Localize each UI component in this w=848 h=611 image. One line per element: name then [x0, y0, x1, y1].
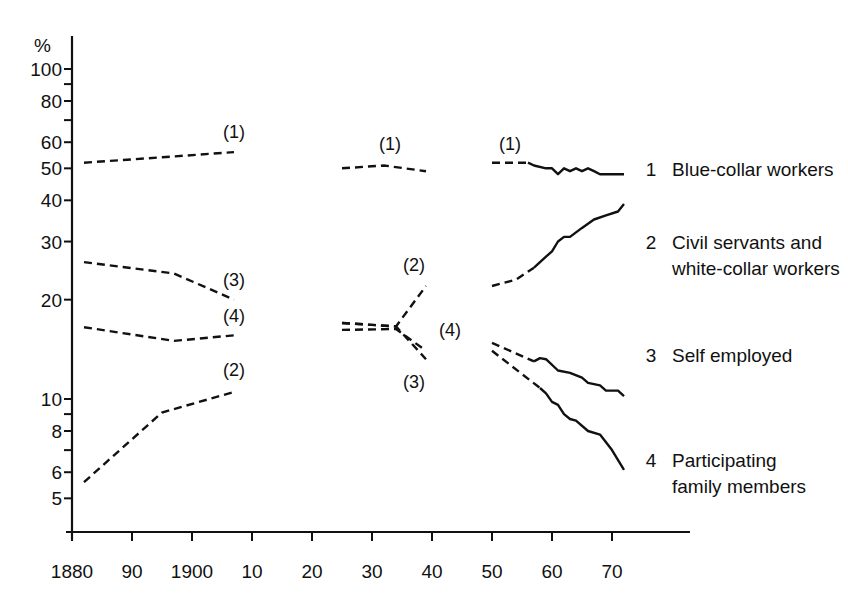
series-annotation: (1)	[379, 134, 401, 154]
series-4-dashed-segment	[342, 329, 426, 351]
legend: 1Blue-collar workers2Civil servants andw…	[646, 159, 840, 497]
y-tick-label: 8	[51, 421, 62, 442]
legend-item-2: 2Civil servants andwhite-collar workers	[646, 232, 840, 279]
series-lines	[84, 152, 624, 482]
y-unit-label: %	[34, 35, 51, 56]
x-tick-label: 90	[121, 561, 142, 582]
series-annotation: (4)	[439, 320, 461, 340]
x-ticks: 188090190010203040506070	[51, 532, 623, 582]
x-tick-label: 60	[541, 561, 562, 582]
series-4-dashed-segment	[492, 351, 540, 388]
series-2-solid-segment	[534, 204, 624, 268]
series-annotation: (2)	[403, 255, 425, 275]
y-ticks: 10080605040302010865	[30, 59, 72, 509]
x-tick-label: 10	[241, 561, 262, 582]
series-1-dashed-segment	[342, 166, 426, 172]
legend-label: Civil servants and	[672, 232, 822, 253]
x-tick-label: 40	[421, 561, 442, 582]
line-chart: % 10080605040302010865 18809019001020304…	[0, 0, 848, 611]
series-annotation: (2)	[223, 360, 245, 380]
series-annotations: (1)(3)(4)(2)(1)(2)(4)(3)(1)	[223, 122, 521, 392]
legend-item-1: 1Blue-collar workers	[646, 159, 834, 180]
series-3	[84, 262, 624, 396]
series-2-dashed-segment	[84, 392, 234, 482]
series-1	[84, 152, 624, 174]
y-tick-label: 10	[41, 389, 62, 410]
y-tick-label: 6	[51, 462, 62, 483]
series-annotation: (3)	[223, 270, 245, 290]
legend-label: Blue-collar workers	[672, 159, 834, 180]
y-tick-label: 50	[41, 158, 62, 179]
series-annotation: (1)	[223, 122, 245, 142]
series-1-solid-segment	[528, 163, 624, 175]
legend-label: Self employed	[672, 345, 792, 366]
series-2-dashed-segment	[342, 286, 426, 326]
y-tick-label: 5	[51, 488, 62, 509]
legend-label: Participating	[672, 450, 777, 471]
legend-number: 1	[646, 159, 657, 180]
x-tick-label: 30	[361, 561, 382, 582]
series-annotation: (4)	[223, 306, 245, 326]
series-2	[84, 204, 624, 482]
chart-axes: % 10080605040302010865 18809019001020304…	[30, 35, 690, 582]
legend-label: white-collar workers	[671, 258, 840, 279]
x-tick-label: 20	[301, 561, 322, 582]
y-tick-label: 80	[41, 91, 62, 112]
legend-number: 3	[646, 345, 657, 366]
legend-label: family members	[672, 476, 806, 497]
x-tick-label: 1900	[171, 561, 213, 582]
y-tick-label: 100	[30, 59, 62, 80]
series-3-solid-segment	[534, 358, 624, 396]
x-tick-label: 70	[601, 561, 622, 582]
legend-number: 4	[646, 450, 657, 471]
x-tick-label: 1880	[51, 561, 93, 582]
x-tick-label: 50	[481, 561, 502, 582]
series-2-dashed-segment	[492, 268, 534, 286]
y-tick-label: 60	[41, 132, 62, 153]
series-4-dashed-segment	[84, 327, 234, 341]
series-annotation: (1)	[499, 134, 521, 154]
series-3-dashed-segment	[492, 343, 534, 362]
series-4	[84, 327, 624, 470]
legend-item-4: 4Participatingfamily members	[646, 450, 806, 497]
y-tick-label: 30	[41, 232, 62, 253]
series-3-dashed-segment	[84, 262, 234, 300]
y-tick-label: 20	[41, 290, 62, 311]
y-tick-label: 40	[41, 190, 62, 211]
legend-number: 2	[646, 232, 657, 253]
series-annotation: (3)	[403, 372, 425, 392]
series-1-dashed-segment	[84, 152, 234, 163]
series-4-solid-segment	[540, 388, 624, 470]
legend-item-3: 3Self employed	[646, 345, 793, 366]
